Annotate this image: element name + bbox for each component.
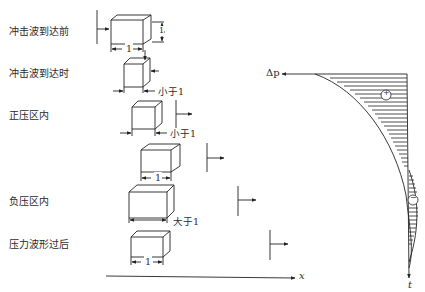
dimension-label-2: 小于1: [158, 84, 184, 98]
side-dimension-label: 1: [159, 26, 164, 35]
dimension-label-4: 1: [154, 172, 162, 183]
positive-region-label: +: [383, 88, 390, 97]
dimension-label-1: 1: [125, 43, 133, 54]
cube-stage-6: [131, 230, 288, 265]
time-axis: [407, 74, 409, 278]
x-axis: [106, 276, 295, 278]
curve: [315, 74, 411, 268]
dimension-label-5: 大于1: [173, 214, 199, 228]
stage-label-1: 冲击波到达前: [9, 23, 69, 38]
stage-label-2: 冲击波到达时: [9, 65, 69, 80]
pressure-time-curve: [282, 74, 418, 278]
time-axis-label: t: [408, 279, 412, 290]
x-axis-label: x: [299, 270, 305, 281]
negative-region-label: −: [410, 193, 417, 202]
pressure-axis-label: Δp: [266, 67, 280, 78]
dimension-label-3: 小于1: [170, 126, 196, 140]
dimension-label-6: 1: [144, 256, 152, 267]
stage-label-5: 负压区内: [9, 193, 49, 208]
stage-label-3: 正压区内: [9, 107, 49, 122]
stage-label-6: 压力波形过后: [9, 236, 69, 251]
cube-stage-2: [113, 50, 159, 93]
